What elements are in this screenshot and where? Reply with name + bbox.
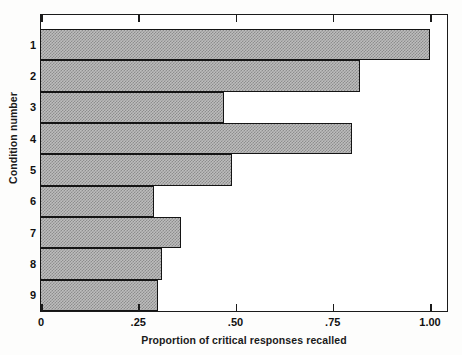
y-axis-tick-labels: 123456789	[18, 29, 36, 311]
bar-condition-6	[40, 186, 154, 217]
x-tick-top-.25	[138, 14, 140, 22]
x-tick-label-.50: .50	[211, 316, 261, 328]
x-tick-top-.75	[333, 14, 335, 22]
x-axis-title: Proportion of critical responses recalle…	[40, 334, 448, 346]
bar-condition-5	[40, 154, 232, 185]
bar-condition-9	[40, 280, 158, 311]
x-tick-label-.75: .75	[308, 316, 358, 328]
bar-row	[40, 154, 448, 185]
x-tick-top-.50	[236, 14, 238, 22]
y-tick-label-8: 8	[18, 257, 36, 271]
bar-condition-4	[40, 123, 352, 154]
x-tick-bottom-.75	[333, 304, 335, 312]
x-tick-top-1.00	[430, 14, 432, 22]
x-tick-bottom-.25	[138, 304, 140, 312]
x-tick-label-1.00: 1.00	[405, 316, 455, 328]
y-tick-label-3: 3	[18, 100, 36, 114]
bar-row	[40, 29, 448, 60]
y-tick-label-1: 1	[18, 38, 36, 52]
bars-area	[40, 29, 448, 311]
x-tick-bottom-1.00	[430, 304, 432, 312]
y-tick-label-5: 5	[18, 163, 36, 177]
bar-condition-1	[40, 29, 430, 60]
bar-condition-2	[40, 60, 360, 91]
bar-row	[40, 60, 448, 91]
bar-chart: Condition number 123456789 Proportion of…	[0, 0, 462, 355]
x-tick-bottom-0	[41, 304, 43, 312]
bar-row	[40, 123, 448, 154]
bar-row	[40, 280, 448, 311]
bar-row	[40, 248, 448, 279]
bar-row	[40, 186, 448, 217]
y-tick-label-7: 7	[18, 226, 36, 240]
y-tick-label-2: 2	[18, 69, 36, 83]
bar-condition-7	[40, 217, 181, 248]
y-tick-label-4: 4	[18, 132, 36, 146]
bar-condition-3	[40, 92, 224, 123]
x-tick-label-0: 0	[16, 316, 66, 328]
y-tick-label-6: 6	[18, 194, 36, 208]
x-tick-label-.25: .25	[113, 316, 163, 328]
bar-row	[40, 217, 448, 248]
y-tick-label-9: 9	[18, 288, 36, 302]
x-tick-top-0	[41, 14, 43, 22]
bar-condition-8	[40, 248, 162, 279]
x-tick-bottom-.50	[236, 304, 238, 312]
bar-row	[40, 92, 448, 123]
